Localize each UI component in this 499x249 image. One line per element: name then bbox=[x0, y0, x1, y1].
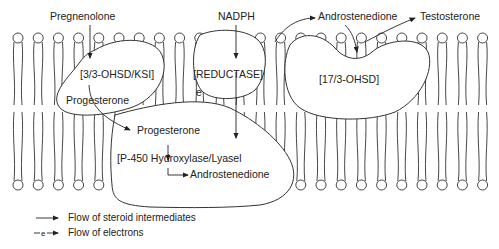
label-p450: [P-450 Hydroxylase/Lyasel bbox=[117, 152, 242, 164]
label-testosterone: Testosterone bbox=[420, 10, 480, 22]
enzyme-reductase bbox=[194, 30, 266, 98]
label-androstenedione-bottom: Androstenedione bbox=[190, 168, 270, 180]
legend: Flow of steroid intermediates e Flow of … bbox=[34, 212, 196, 238]
label-progesterone-1: Progesterone bbox=[66, 94, 129, 106]
label-pregnenolone: Pregnenolone bbox=[50, 10, 116, 22]
label-hsd-ksi: [3/3-OHSD/KSI] bbox=[80, 68, 154, 80]
label-17b-hsd: [17/3-OHSD] bbox=[319, 73, 379, 85]
label-reductase: [REDUCTASE] bbox=[193, 68, 263, 80]
label-nadph: NADPH bbox=[218, 10, 255, 22]
legend-label-steroid: Flow of steroid intermediates bbox=[68, 212, 196, 223]
label-androstenedione-top: Androstenedione bbox=[318, 10, 398, 22]
legend-electron-symbol: e bbox=[41, 229, 46, 238]
legend-label-electrons: Flow of electrons bbox=[68, 227, 144, 238]
steroid-membrane-diagram: Pregnenolone NADPH Androstenedione Testo… bbox=[0, 0, 499, 249]
arrow-androstenedione-into-hsd17 bbox=[345, 25, 357, 52]
label-progesterone-2: Progesterone bbox=[137, 124, 200, 136]
label-electron: e bbox=[196, 86, 202, 98]
